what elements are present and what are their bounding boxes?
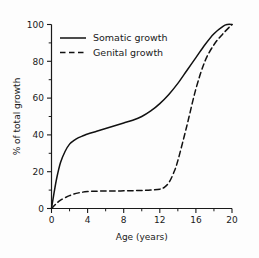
legend-label-somatic-growth: Somatic growth (93, 32, 168, 43)
y-tick-label: 100 (27, 20, 44, 30)
x-axis-title: Age (years) (116, 232, 168, 242)
x-axis-tick-labels: 048121620 (49, 215, 238, 225)
y-tick-label: 20 (33, 167, 45, 177)
x-tick-label: 0 (49, 215, 55, 225)
y-axis-title: % of total growth (12, 78, 22, 156)
x-tick-label: 12 (154, 215, 165, 225)
x-tick-label: 4 (85, 215, 91, 225)
x-axis-ticks (52, 209, 233, 214)
y-tick-label: 40 (33, 130, 45, 140)
x-tick-label: 20 (226, 215, 238, 225)
legend-label-genital-growth: Genital growth (93, 47, 163, 58)
chart-legend: Somatic growthGenital growth (60, 32, 168, 58)
y-tick-label: 60 (33, 93, 45, 103)
y-tick-label: 0 (38, 204, 44, 214)
growth-chart-figure: 020406080100 048121620 Age (years) % of … (0, 0, 259, 258)
y-axis-tick-labels: 020406080100 (27, 20, 44, 214)
y-axis-ticks (47, 25, 52, 209)
chart-canvas: 020406080100 048121620 Age (years) % of … (0, 0, 259, 258)
y-tick-label: 80 (33, 57, 45, 67)
x-tick-label: 16 (190, 215, 202, 225)
x-tick-label: 8 (121, 215, 127, 225)
